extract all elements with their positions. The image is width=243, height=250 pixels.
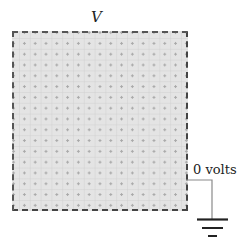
ground-wire [186,180,212,219]
ground-icon [197,220,228,237]
ground-connection [0,0,243,250]
